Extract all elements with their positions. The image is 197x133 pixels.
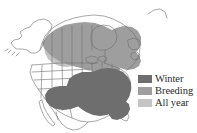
legend-label-breeding: Breeding <box>155 85 193 96</box>
aleutian-chain <box>5 49 19 56</box>
greenland-edge-outline <box>148 9 167 18</box>
range-map-figure: Winter Breeding All year <box>0 0 197 133</box>
all-year-swatch <box>138 99 152 107</box>
legend-item-all-year: All year <box>138 97 197 108</box>
north-america-map <box>0 0 197 133</box>
region-winter <box>45 68 131 120</box>
legend-label-winter: Winter <box>155 73 183 84</box>
region-breeding <box>42 22 141 78</box>
legend-item-winter: Winter <box>138 73 197 84</box>
winter-swatch <box>138 75 152 83</box>
legend-label-all-year: All year <box>155 97 189 108</box>
legend-item-breeding: Breeding <box>138 85 197 96</box>
map-legend: Winter Breeding All year <box>138 73 197 108</box>
breeding-swatch <box>138 87 152 95</box>
